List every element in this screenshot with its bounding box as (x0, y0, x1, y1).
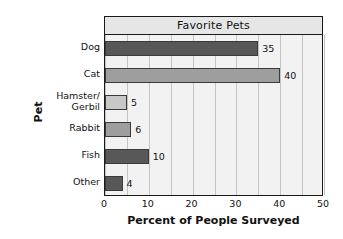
category-label-line: Gerbil (32, 102, 100, 113)
bar (105, 149, 149, 164)
bar (105, 176, 123, 191)
bar-row: 5 (105, 95, 322, 110)
category-label-line: Rabbit (32, 123, 100, 134)
bar-row: 10 (105, 149, 322, 164)
category-label: Dog (32, 42, 100, 53)
category-label-line: Hamster/ (32, 91, 100, 102)
x-tick-label: 10 (142, 198, 154, 209)
category-label-line: Fish (32, 150, 100, 161)
category-label-line: Dog (32, 42, 100, 53)
category-label: Cat (32, 69, 100, 80)
x-tick-label: 30 (229, 198, 241, 209)
bar-value-label: 40 (284, 71, 296, 81)
category-label-column: DogCatHamster/GerbilRabbitFishOther (32, 34, 102, 195)
x-tick-label: 0 (101, 198, 107, 209)
category-label: Rabbit (32, 123, 100, 134)
bar (105, 95, 127, 110)
chart-frame: Favorite Pets 354056104 (104, 16, 323, 196)
bar-value-label: 35 (262, 44, 274, 54)
category-label-line: Cat (32, 69, 100, 80)
chart-title-band: Favorite Pets (105, 17, 322, 35)
bar (105, 122, 131, 137)
category-label: Other (32, 177, 100, 188)
bar-row: 4 (105, 176, 322, 191)
bar-row: 40 (105, 68, 322, 83)
favorite-pets-bar-chart: Pet DogCatHamster/GerbilRabbitFishOther … (0, 0, 343, 239)
x-tick-label: 20 (186, 198, 198, 209)
bar (105, 68, 280, 83)
category-label: Fish (32, 150, 100, 161)
category-label: Hamster/Gerbil (32, 91, 100, 112)
bar (105, 41, 258, 56)
x-tick-label: 50 (317, 198, 329, 209)
x-tick-label: 40 (273, 198, 285, 209)
bar-value-label: 4 (127, 179, 133, 189)
bar-row: 35 (105, 41, 322, 56)
x-axis-title: Percent of People Surveyed (104, 214, 323, 227)
gridline (324, 35, 325, 195)
bar-value-label: 10 (153, 152, 165, 162)
x-axis-ticks: 01020304050 (104, 198, 323, 210)
category-label-line: Other (32, 177, 100, 188)
chart-title: Favorite Pets (177, 19, 250, 32)
bar-row: 6 (105, 122, 322, 137)
bar-value-label: 6 (135, 125, 141, 135)
bar-series: 354056104 (105, 35, 322, 195)
bar-value-label: 5 (131, 98, 137, 108)
plot-area: 354056104 (105, 35, 322, 195)
